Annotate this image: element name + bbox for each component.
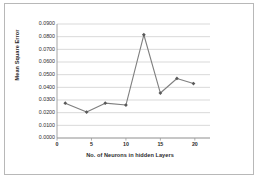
data-point-marker: [63, 101, 67, 105]
data-point-marker: [85, 110, 89, 114]
x-axis-title: No. of Neurons in hidden Layers: [5, 152, 255, 158]
plot-area: [5, 4, 255, 176]
x-axis-tick-label: 20: [185, 142, 205, 147]
x-axis-tick-label: 5: [81, 142, 101, 147]
data-point-marker: [103, 101, 107, 105]
figure-frame: Mean Square Error 0.00000.01000.02000.03…: [4, 3, 254, 175]
data-markers: [63, 33, 195, 114]
x-axis-tick-labels: 05101520: [5, 138, 255, 148]
x-axis-tick-label: 15: [150, 142, 170, 147]
x-axis-tick-label: 0: [47, 142, 67, 147]
data-point-marker: [124, 103, 128, 107]
data-point-marker: [142, 33, 146, 37]
chart-root: Mean Square Error 0.00000.01000.02000.03…: [5, 4, 255, 176]
data-point-marker: [192, 82, 196, 86]
x-axis-tick-label: 10: [116, 142, 136, 147]
data-series-line: [65, 35, 193, 112]
